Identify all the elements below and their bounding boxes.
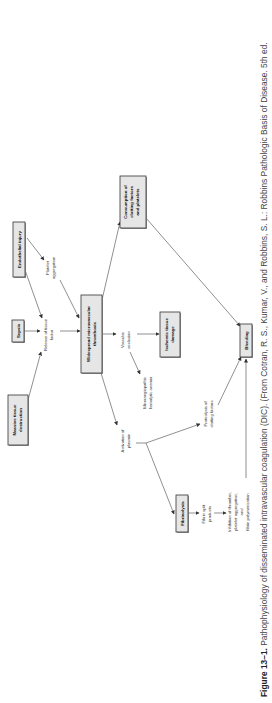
node-label: Massive tissue [12,404,17,436]
edge-consumption-bleeding [146,218,240,326]
node-widespread-microvascular-thrombosis: Widespread microvascular thrombosis [81,295,103,374]
node-label: and platelets [135,188,140,215]
edge-proteolysis-bleeding [218,357,241,405]
node-fibrinolysis: Fibrinolysis [176,495,189,533]
svg-text:Platelet: Platelet [45,260,50,275]
svg-text:plasmin: plasmin [126,433,131,448]
dic-pathophysiology-diagram: Endothelial injury Sepsis Massive tissue… [0,0,272,703]
node-bleeding: Bleeding [240,324,253,358]
svg-text:occlusion: occlusion [126,331,131,349]
node-sepsis: Sepsis [12,320,25,343]
node-label: Ischemic tissue [164,318,169,351]
edge-endothelial-platelet [27,238,44,260]
svg-text:Microangiopathic: Microangiopathic [142,377,147,409]
svg-text:Inhibition of thrombin,: Inhibition of thrombin, [227,492,232,532]
svg-text:Fibrin split: Fibrin split [201,504,206,524]
svg-text:factor: factor [49,329,54,340]
edge-platelet-thrombosis [60,280,79,318]
edge-activation-fibrinolysis [146,443,174,514]
node-label: Fibrinolysis [180,501,185,526]
node-consumption-clotting-factors: Consumption of clotting factors and plat… [120,176,147,229]
svg-text:Vascular: Vascular [120,331,125,348]
node-label: thrombosis [92,321,97,345]
node-label: Widespread microvascular [86,306,91,362]
edge-massive-release [28,352,41,400]
label-proteolysis-clotting-factors: Proteolysis of clotting factors [203,401,214,428]
svg-text:Release of tissue: Release of tissue [43,318,48,351]
svg-text:platelet aggregation,: platelet aggregation, [233,493,238,531]
svg-text:and: and [239,508,244,516]
node-label: destruction [18,408,23,432]
svg-text:Activation of: Activation of [120,429,125,453]
svg-text:aggregation: aggregation [51,256,56,279]
edge-thrombosis-consumption [102,222,120,300]
svg-text:Proteolysis of: Proteolysis of [203,401,208,427]
label-fibrin-split-products: Fibrin split products [201,504,212,524]
node-endothelial-injury: Endothelial injury [13,222,26,278]
svg-text:fibrin polymerization: fibrin polymerization [245,493,250,531]
edge-vascular-micro [130,352,140,374]
node-label: damage [170,326,175,343]
svg-text:hemolytic anemia: hemolytic anemia [148,376,153,409]
edges [25,218,246,514]
node-massive-tissue-destruction: Massive tissue destruction [8,395,29,446]
node-label: Endothelial injury [17,231,22,268]
edge-activation-proteolysis [146,424,200,443]
node-label: clotting factors [129,186,134,218]
node-ischemic-tissue-damage: Ischemic tissue damage [160,312,181,358]
label-inhibition-of-thrombin: Inhibition of thrombin, platelet aggrega… [227,492,250,532]
figure-caption: Figure 13–1. Pathophysiology of dissemin… [259,42,269,697]
svg-text:clotting factors: clotting factors [209,401,214,428]
edge-thrombosis-activation [101,373,117,425]
svg-text:products: products [207,506,212,522]
node-label: Bleeding [244,331,249,350]
label-microangiopathic-hemolytic-anemia: Microangiopathic hemolytic anemia [142,376,153,409]
node-label: Sepsis [16,323,21,338]
caption-text: Pathophysiology of disseminated intravas… [259,42,269,648]
node-label: Consumption of [123,185,128,219]
label-activation-of-plasmin: Activation of plasmin [120,429,131,453]
label-vascular-occlusion: Vascular occlusion [120,331,131,349]
label-release-tissue-factor: Release of tissue factor [43,318,54,351]
figure-number: Figure 13–1. [259,648,269,697]
edge-endothelial-release [25,270,42,318]
label-platelet-aggregation: Platelet aggregation [45,256,56,279]
